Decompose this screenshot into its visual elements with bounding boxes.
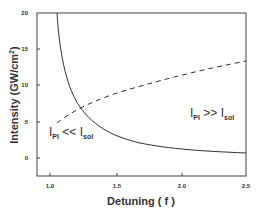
annotation-low: IPl << Isol [49, 125, 93, 140]
x-tick-2.5: 2.5 [242, 183, 251, 189]
y-tick-15: 15 [21, 46, 28, 52]
y-tick-0: 0 [25, 155, 29, 161]
svg-text:IPl << Isol: IPl << Isol [49, 125, 93, 140]
x-axis-label: Detuning ( f ) [107, 195, 175, 207]
y-tick-10: 10 [21, 82, 28, 88]
annotation-high: IPl >> Isol [190, 106, 234, 121]
x-tick-2.0: 2.0 [178, 183, 187, 189]
x-tick-1.5: 1.5 [113, 183, 122, 189]
chart: 0 5 10 15 20 1.0 1.5 2.0 2.5 IPl << Isol… [0, 0, 258, 217]
svg-text:IPl >> Isol: IPl >> Isol [190, 106, 234, 121]
x-tick-1.0: 1.0 [46, 183, 55, 189]
y-tick-20: 20 [21, 10, 28, 16]
y-tick-5: 5 [25, 119, 29, 125]
y-axis-label: Intensity (GW/cm2) [8, 46, 20, 144]
